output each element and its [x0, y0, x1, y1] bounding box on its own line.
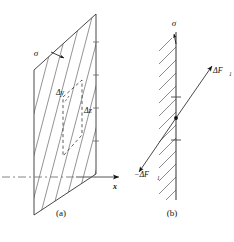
- force-negative-subscript: 1: [157, 175, 160, 181]
- force-negative-label: −ΔF 1: [134, 170, 160, 181]
- force-negative-vector: [139, 118, 176, 172]
- force-positive-label: ΔF 1: [212, 66, 232, 77]
- delta-y-label: Δy: [55, 88, 65, 97]
- force-positive-text: ΔF: [212, 66, 223, 75]
- force-application-point: [174, 116, 178, 120]
- delta-z-label: Δz: [83, 106, 93, 115]
- panel-b-group: σ ΔF 1 −ΔF 1 (b): [134, 18, 232, 229]
- panel-a-sigma-label: σ: [34, 48, 39, 58]
- panel-b-sigma-label: σ: [172, 18, 177, 28]
- panel-a-sigma-leader: [51, 52, 64, 58]
- force-positive-subscript: 1: [229, 71, 232, 77]
- force-negative-text: −ΔF: [134, 170, 149, 179]
- panel-b-caption: (b): [167, 208, 178, 218]
- figure-container: σ Δy Δz x (a): [0, 0, 234, 242]
- force-positive-vector: [176, 66, 212, 118]
- x-axis-label: x: [112, 182, 117, 191]
- figure-drawing: σ Δy Δz x (a): [0, 0, 234, 242]
- delta-y-leader: [64, 96, 69, 103]
- panel-b-hatching: [150, 28, 182, 229]
- panel-a-caption: (a): [56, 208, 66, 218]
- panel-a-group: σ Δy Δz x (a): [2, 2, 140, 232]
